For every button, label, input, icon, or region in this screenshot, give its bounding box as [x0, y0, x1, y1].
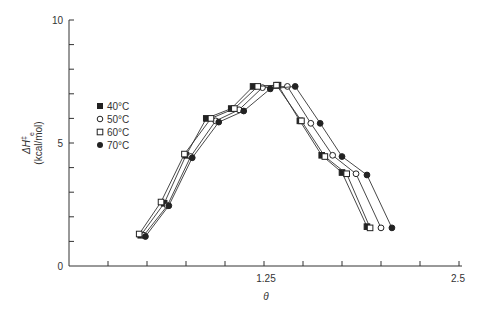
series-40C: [138, 82, 370, 238]
svg-text:70°C: 70°C: [107, 140, 129, 151]
svg-text:50°C: 50°C: [107, 114, 129, 125]
filled-circle-marker-icon: [292, 84, 298, 90]
series-line: [144, 86, 381, 235]
filled-circle-marker-icon: [216, 119, 222, 125]
filled-circle-marker-icon: [364, 172, 370, 178]
open-circle-marker-icon: [308, 120, 314, 126]
y-tick-label-10: 10: [52, 15, 64, 26]
open-square-marker-icon: [344, 171, 350, 177]
open-circle-marker-icon: [378, 225, 384, 231]
filled-circle-marker-icon: [166, 203, 172, 209]
series-line: [145, 86, 392, 236]
y-axis-title-main: ΔH: [21, 139, 32, 155]
series-line: [139, 85, 370, 234]
open-square-marker-icon: [97, 129, 103, 135]
y-tick-label-0: 0: [57, 261, 63, 272]
open-circle-marker-icon: [97, 116, 103, 122]
y-tick-label-5: 5: [57, 138, 63, 149]
open-square-marker-icon: [208, 116, 214, 122]
filled-square-marker-icon: [97, 103, 103, 109]
filled-circle-marker-icon: [267, 86, 273, 92]
chart: 10 5 0 1.25 2.5 θ ΔH‡e (kcal/mol) 40°C 5…: [0, 0, 489, 314]
filled-circle-marker-icon: [97, 142, 103, 148]
open-square-marker-icon: [367, 225, 373, 231]
legend-item-60: 60°C: [97, 127, 129, 138]
svg-text:60°C: 60°C: [107, 127, 129, 138]
open-square-marker-icon: [182, 151, 188, 157]
x-tick-label-2-5: 2.5: [451, 273, 465, 284]
legend: 40°C 50°C 60°C 70°C: [97, 101, 129, 151]
filled-circle-marker-icon: [189, 155, 195, 161]
open-square-marker-icon: [158, 199, 164, 205]
svg-text:40°C: 40°C: [107, 101, 129, 112]
x-tick-label-1-25: 1.25: [256, 273, 276, 284]
y-axis-title: ΔH‡e (kcal/mol): [20, 121, 44, 164]
x-axis: 1.25 2.5: [69, 261, 465, 284]
filled-circle-marker-icon: [317, 120, 323, 126]
open-square-marker-icon: [136, 231, 142, 237]
open-circle-marker-icon: [353, 171, 359, 177]
filled-circle-marker-icon: [241, 108, 247, 114]
open-circle-marker-icon: [285, 84, 291, 90]
filled-circle-marker-icon: [143, 234, 149, 240]
series-line: [141, 85, 367, 235]
legend-item-40: 40°C: [97, 101, 129, 112]
legend-item-50: 50°C: [97, 114, 129, 125]
open-square-marker-icon: [274, 82, 280, 88]
x-axis-title: θ: [263, 291, 269, 302]
y-axis-title-units: (kcal/mol): [33, 121, 44, 164]
open-square-marker-icon: [322, 154, 328, 160]
open-square-marker-icon: [255, 84, 261, 90]
open-square-marker-icon: [299, 118, 305, 124]
plot-area: [136, 82, 394, 239]
filled-circle-marker-icon: [339, 154, 345, 160]
filled-circle-marker-icon: [389, 225, 395, 231]
legend-item-70: 70°C: [97, 140, 129, 151]
open-circle-marker-icon: [330, 152, 336, 158]
y-axis: 10 5 0: [52, 15, 74, 272]
open-square-marker-icon: [232, 106, 238, 112]
y-axis-title-sup: ‡: [20, 136, 27, 140]
